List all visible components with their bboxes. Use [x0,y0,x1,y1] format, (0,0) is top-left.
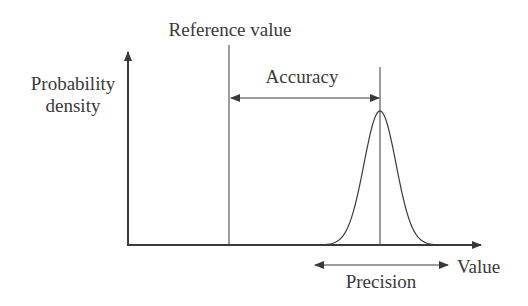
diagram-canvas: Probability density Reference value Accu… [0,0,528,306]
precision-label: Precision [346,271,417,292]
reference-value-label: Reference value [169,19,292,40]
accuracy-label: Accuracy [266,66,339,87]
y-axis-label-line2: density [46,95,101,116]
accuracy-precision-diagram: Probability density Reference value Accu… [0,0,528,306]
x-axis-label: Value [457,256,500,277]
y-axis-label-line1: Probability [31,73,116,94]
